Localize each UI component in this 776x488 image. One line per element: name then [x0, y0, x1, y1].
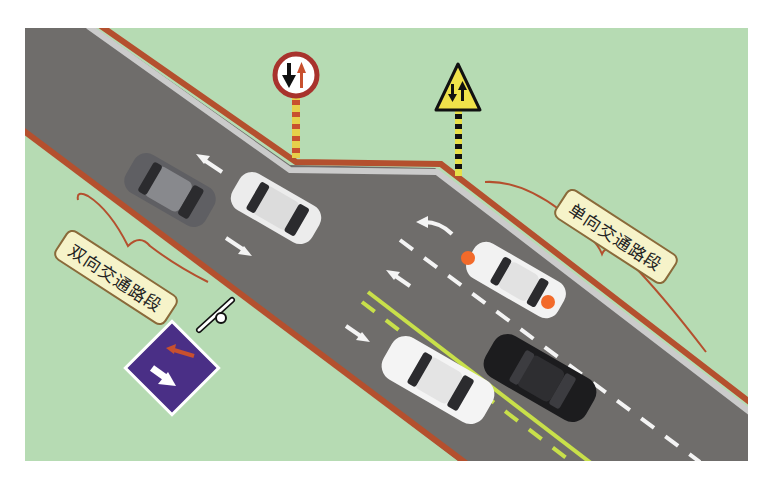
- hazard-light-rear: [541, 295, 555, 309]
- hazard-light-front: [461, 251, 475, 265]
